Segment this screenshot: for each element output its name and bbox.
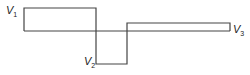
negative-pulse-v2: [96, 31, 127, 64]
label-v1: V1: [6, 5, 17, 18]
label-v2: V2: [84, 56, 95, 69]
pulse-waveform-diagram: [0, 0, 250, 75]
level-v3: [127, 23, 230, 31]
positive-pulse-v1: [24, 8, 96, 31]
label-v3: V3: [233, 24, 244, 37]
